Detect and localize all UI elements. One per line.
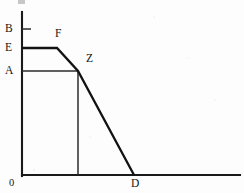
point-label-f: F <box>55 28 61 40</box>
point-label-z: Z <box>86 53 93 65</box>
figure-canvas: B E A F Z D 0 <box>0 0 244 193</box>
y-axis-label-a: A <box>5 65 13 77</box>
point-label-d: D <box>131 178 139 190</box>
y-axis-label-b: B <box>5 23 13 35</box>
guides-group <box>22 29 78 175</box>
diagram-svg <box>0 0 244 193</box>
origin-label: 0 <box>9 178 14 189</box>
y-axis-label-e: E <box>5 42 12 54</box>
